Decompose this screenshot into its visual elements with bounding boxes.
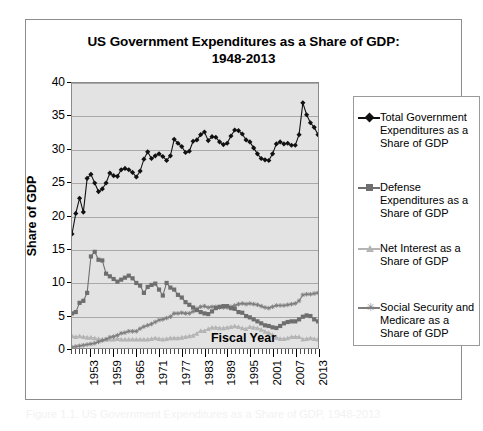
- x-tick-minor: [300, 349, 301, 354]
- plot-area: [71, 82, 319, 349]
- data-point: [285, 303, 290, 308]
- x-tick-minor: [292, 349, 293, 354]
- x-tick-label: 2013: [317, 360, 329, 386]
- data-point: [296, 132, 301, 137]
- data-point: [180, 295, 184, 299]
- data-point: [228, 133, 233, 138]
- chart-legend: Total Government Expenditures as a Share…: [353, 96, 480, 346]
- x-tick-minor: [178, 349, 179, 354]
- x-tick-minor: [174, 349, 175, 354]
- data-point: [176, 293, 180, 297]
- data-point: [93, 250, 97, 254]
- data-point: [153, 282, 157, 286]
- data-point: [134, 281, 138, 285]
- legend-key: ✳: [358, 302, 380, 314]
- y-tick-label: 10: [52, 275, 65, 289]
- data-point: [248, 301, 253, 306]
- data-point: [274, 326, 278, 330]
- x-tick-label: 1965: [134, 360, 146, 386]
- data-point: [244, 314, 248, 318]
- x-tick-minor: [143, 349, 144, 354]
- x-tick-minor: [311, 349, 312, 354]
- x-tick-minor: [71, 349, 72, 354]
- x-tick-minor: [266, 349, 267, 354]
- data-point: [206, 312, 210, 316]
- x-tick-minor: [231, 349, 232, 354]
- data-point: [293, 319, 297, 323]
- x-tick-minor: [315, 349, 316, 354]
- x-tick-major: [205, 349, 206, 357]
- data-point: [103, 180, 108, 185]
- data-point: [305, 313, 309, 317]
- y-tick-mark: [67, 316, 71, 317]
- legend-key: [358, 243, 380, 255]
- data-point: [289, 319, 293, 323]
- data-point: [282, 321, 286, 325]
- data-point: [308, 314, 312, 318]
- x-tick-minor: [254, 349, 255, 354]
- y-tick-mark: [67, 182, 71, 183]
- x-tick-minor: [124, 349, 125, 354]
- data-point: [293, 143, 298, 148]
- x-tick-minor: [281, 349, 282, 354]
- data-point: [112, 277, 116, 281]
- y-tick-label: 40: [52, 75, 65, 89]
- x-tick-minor: [140, 349, 141, 354]
- data-point: [252, 317, 256, 321]
- x-tick-major: [296, 349, 297, 357]
- x-axis-ticks: 1953195919651971197719831989199520012007…: [71, 349, 319, 358]
- x-tick-label: 2001: [271, 360, 283, 386]
- x-tick-label: 1989: [225, 360, 237, 386]
- figure-caption: Figure 1.1. US Government Expenditures a…: [26, 408, 466, 421]
- data-point: [270, 325, 274, 329]
- triangle-marker: [366, 245, 374, 252]
- data-point: [72, 231, 75, 236]
- x-tick-minor: [258, 349, 259, 354]
- y-tick-label: 15: [52, 242, 65, 256]
- data-point: [312, 317, 316, 321]
- legend-item[interactable]: Total Government Expenditures as a Share…: [358, 111, 480, 150]
- series-diamond: [72, 100, 318, 236]
- data-point: [199, 310, 203, 314]
- x-tick-minor: [193, 349, 194, 354]
- plot-wrapper: Share of GDP 0510152025303540 1953195919…: [71, 82, 319, 349]
- series-line: [72, 103, 318, 234]
- data-point: [278, 324, 282, 328]
- data-point: [312, 291, 317, 296]
- data-point: [168, 286, 172, 290]
- x-tick-minor: [155, 349, 156, 354]
- data-point: [240, 301, 245, 306]
- data-point: [263, 323, 267, 327]
- x-tick-minor: [308, 349, 309, 354]
- data-point: [161, 293, 165, 297]
- x-tick-minor: [269, 349, 270, 354]
- star-marker: ✳: [366, 303, 374, 311]
- legend-item[interactable]: Net Interest as a Share of GDP: [358, 242, 480, 268]
- data-point: [232, 127, 237, 132]
- data-point: [92, 180, 97, 185]
- data-point: [81, 299, 85, 303]
- data-point: [73, 211, 78, 216]
- data-point: [304, 112, 309, 117]
- data-point: [191, 305, 195, 309]
- data-point: [308, 292, 313, 297]
- y-axis-label: Share of GDP: [25, 175, 39, 256]
- x-tick-minor: [288, 349, 289, 354]
- data-point: [187, 303, 191, 307]
- data-point: [210, 309, 214, 313]
- legend-label: Total Government Expenditures as a Share…: [380, 111, 480, 150]
- data-point: [157, 287, 161, 291]
- legend-item[interactable]: Defense Expenditures as a Share of GDP: [358, 181, 480, 220]
- data-point: [244, 302, 249, 307]
- data-point: [89, 254, 93, 258]
- data-point: [263, 305, 268, 310]
- data-point: [138, 284, 142, 288]
- data-point: [130, 276, 134, 280]
- x-tick-label: 1995: [248, 360, 260, 386]
- y-tick-mark: [67, 115, 71, 116]
- diamond-marker: [365, 113, 375, 123]
- data-point: [195, 308, 199, 312]
- x-tick-minor: [189, 349, 190, 354]
- square-marker: [366, 184, 373, 191]
- legend-item[interactable]: ✳Social Security and Medicare as a Share…: [358, 301, 480, 340]
